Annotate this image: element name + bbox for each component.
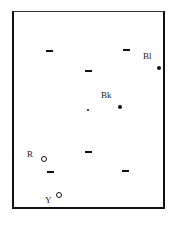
label-r: R bbox=[27, 150, 33, 159]
dash-marker bbox=[47, 171, 54, 173]
label-bl: Bl bbox=[143, 52, 152, 61]
point-y bbox=[56, 192, 62, 198]
point-small bbox=[87, 109, 89, 111]
label-bk: Bk bbox=[101, 91, 112, 100]
point-bk bbox=[118, 105, 122, 109]
dash-marker bbox=[85, 70, 92, 72]
dash-marker bbox=[123, 49, 130, 51]
point-r bbox=[41, 156, 47, 162]
dash-marker bbox=[46, 50, 53, 52]
point-bl bbox=[157, 66, 161, 70]
label-y: Y bbox=[45, 196, 52, 205]
dash-marker bbox=[122, 170, 129, 172]
dash-marker bbox=[85, 151, 92, 153]
